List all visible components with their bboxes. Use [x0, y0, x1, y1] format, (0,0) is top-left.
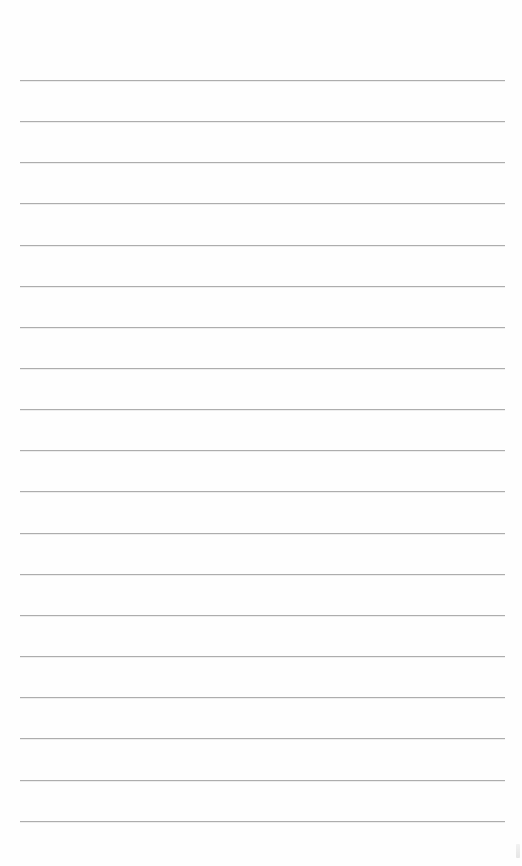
lined-page	[0, 0, 522, 866]
ruled-line	[20, 574, 505, 575]
ruled-line	[20, 80, 505, 81]
ruled-line	[20, 491, 505, 492]
ruled-line	[20, 121, 505, 122]
ruled-line	[20, 738, 505, 739]
ruled-line	[20, 656, 505, 657]
ruled-line	[20, 162, 505, 163]
ruled-line	[20, 821, 505, 822]
page-corner-mark	[516, 844, 520, 858]
ruled-line	[20, 203, 505, 204]
ruled-line	[20, 780, 505, 781]
ruled-line	[20, 697, 505, 698]
ruled-line	[20, 245, 505, 246]
ruled-line	[20, 533, 505, 534]
ruled-line	[20, 450, 505, 451]
ruled-line	[20, 327, 505, 328]
ruled-line	[20, 409, 505, 410]
ruled-line	[20, 368, 505, 369]
ruled-line	[20, 286, 505, 287]
ruled-line	[20, 615, 505, 616]
